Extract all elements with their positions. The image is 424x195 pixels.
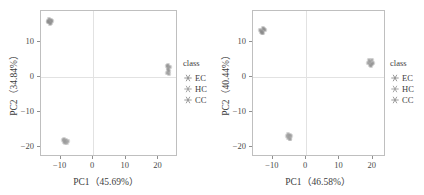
- data-point: [287, 136, 292, 141]
- x-tick-mark: [372, 156, 373, 159]
- y-tick-label: −20: [10, 141, 34, 150]
- x-tick-label: 0: [303, 161, 307, 170]
- x-tick-mark: [92, 156, 93, 159]
- x-tick-mark: [60, 156, 61, 159]
- legend-item-label: CC: [402, 95, 413, 105]
- data-point: [62, 136, 67, 141]
- x-axis-title-left: PC1（45.69%）: [0, 174, 212, 188]
- data-point: [166, 63, 171, 68]
- legend-title-left: class: [183, 58, 207, 68]
- legend-item-hc[interactable]: HC: [183, 83, 207, 94]
- y-axis-title-left: PC2（34.84%）: [6, 28, 20, 138]
- y-tick-mark: [37, 41, 40, 42]
- legend-item-hc[interactable]: HC: [390, 83, 414, 94]
- reference-line-y0-left: [41, 77, 176, 78]
- legend-item-cc[interactable]: CC: [390, 94, 414, 105]
- plot-area-right: [252, 10, 385, 156]
- legend-left: class ECHCCC: [183, 58, 207, 105]
- legend-item-cc[interactable]: CC: [183, 94, 207, 105]
- plot-area-left: [40, 10, 177, 156]
- legend-items-right: ECHCCC: [390, 72, 414, 105]
- data-point: [259, 30, 264, 35]
- reference-line-x0-left: [93, 11, 94, 155]
- y-tick-mark: [249, 76, 252, 77]
- reference-line-x0-right: [306, 11, 307, 155]
- x-tick-label: 0: [90, 161, 94, 170]
- x-tick-mark: [272, 156, 273, 159]
- legend-item-label: EC: [402, 73, 413, 83]
- legend-marker-asterisk-icon: [183, 95, 192, 104]
- legend-item-label: HC: [402, 84, 414, 94]
- data-point: [165, 70, 170, 75]
- y-tick-mark: [37, 76, 40, 77]
- legend-marker-asterisk-icon: [183, 73, 192, 82]
- y-tick-mark: [249, 41, 252, 42]
- y-tick-mark: [37, 111, 40, 112]
- y-tick-label: −20: [222, 141, 246, 150]
- pca-figure: −1001020 100−10−20 PC1（45.69%） PC2（34.84…: [0, 0, 424, 195]
- data-point: [286, 132, 291, 137]
- legend-item-label: CC: [195, 95, 206, 105]
- legend-item-label: HC: [195, 84, 207, 94]
- data-point: [49, 20, 54, 25]
- data-point: [367, 63, 372, 68]
- x-tick-label: 10: [121, 161, 130, 170]
- legend-right: class ECHCCC: [390, 58, 414, 105]
- y-axis-title-right: PC2（40.44%）: [218, 28, 232, 138]
- x-tick-mark: [305, 156, 306, 159]
- legend-items-left: ECHCCC: [183, 72, 207, 105]
- x-axis-title-right: PC1（46.58%）: [212, 174, 424, 188]
- x-tick-label: 10: [334, 161, 343, 170]
- legend-title-right: class: [390, 58, 414, 68]
- x-tick-label: −10: [265, 161, 278, 170]
- x-tick-label: 20: [367, 161, 376, 170]
- x-tick-mark: [157, 156, 158, 159]
- y-tick-mark: [249, 111, 252, 112]
- x-tick-mark: [125, 156, 126, 159]
- x-tick-label: −10: [53, 161, 66, 170]
- pca-panel-right: −1001020 100−10−20 PC1（46.58%） PC2（40.44…: [212, 0, 424, 195]
- y-tick-mark: [249, 146, 252, 147]
- legend-marker-asterisk-icon: [390, 73, 399, 82]
- reference-line-y0-right: [253, 77, 384, 78]
- legend-marker-asterisk-icon: [390, 95, 399, 104]
- legend-item-ec[interactable]: EC: [183, 72, 207, 83]
- x-tick-label: 20: [153, 161, 162, 170]
- legend-item-label: EC: [195, 73, 206, 83]
- y-tick-mark: [37, 146, 40, 147]
- legend-marker-asterisk-icon: [390, 84, 399, 93]
- x-tick-mark: [338, 156, 339, 159]
- legend-item-ec[interactable]: EC: [390, 72, 414, 83]
- legend-marker-asterisk-icon: [183, 84, 192, 93]
- pca-panel-left: −1001020 100−10−20 PC1（45.69%） PC2（34.84…: [0, 0, 212, 195]
